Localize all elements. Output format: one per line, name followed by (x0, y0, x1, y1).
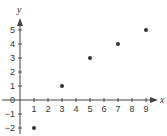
y-ticks: −2−1012345 (5, 25, 22, 133)
y-tick-label: 5 (10, 25, 15, 35)
x-tick-label: 4 (73, 104, 78, 114)
y-tick-label: 2 (10, 67, 15, 77)
y-tick-label: 1 (10, 81, 15, 91)
x-arrow-icon (150, 97, 158, 103)
data-point (32, 126, 36, 130)
y-arrow-icon (17, 18, 23, 26)
x-axis (2, 97, 158, 103)
y-axis (17, 18, 23, 134)
x-tick-label: 3 (59, 104, 64, 114)
data-point (60, 84, 64, 88)
x-tick-label: 1 (31, 104, 36, 114)
y-tick-label: −2 (5, 123, 15, 133)
y-tick-label: −1 (5, 109, 15, 119)
x-tick-label: 2 (45, 104, 50, 114)
y-tick-label: 4 (10, 39, 15, 49)
x-tick-label: 5 (87, 104, 92, 114)
data-point (116, 42, 120, 46)
x-tick-label: 9 (143, 104, 148, 114)
x-tick-label: 6 (101, 104, 106, 114)
data-point (88, 56, 92, 60)
x-tick-label: 7 (115, 104, 120, 114)
data-points (32, 28, 148, 130)
data-point (144, 28, 148, 32)
y-tick-label: 0 (10, 95, 15, 105)
y-axis-label: y (16, 4, 22, 15)
y-tick-label: 3 (10, 53, 15, 63)
scatter-plot: 123456789 −2−1012345 x y (0, 0, 167, 136)
x-tick-label: 8 (129, 104, 134, 114)
x-axis-label: x (159, 94, 165, 105)
